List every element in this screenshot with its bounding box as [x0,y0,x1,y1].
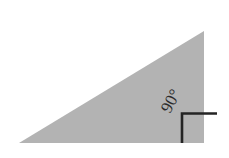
geometry-figure-canvas: 90° [0,0,229,158]
figure-root: 90° [0,0,229,158]
